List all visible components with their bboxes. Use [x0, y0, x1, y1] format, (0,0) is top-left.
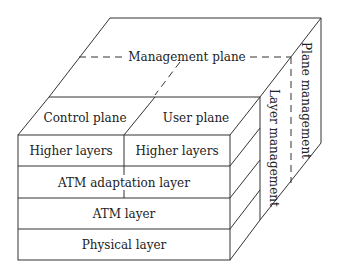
plane-management-label: Plane management — [299, 42, 313, 159]
atm-adaptation-layer-label: ATM adaptation layer — [57, 176, 190, 190]
user-plane-label: User plane — [163, 111, 229, 125]
layer-management-label: Layer management — [267, 89, 281, 207]
control-plane-label: Control plane — [43, 111, 126, 125]
physical-layer-label: Physical layer — [82, 238, 167, 252]
brisdn-protocol-cube-diagram: Management plane Control plane User plan… — [0, 0, 338, 277]
management-plane-label: Management plane — [128, 50, 245, 64]
higher-layers-left-label: Higher layers — [29, 144, 112, 158]
diagram-canvas: Management plane Control plane User plan… — [0, 0, 338, 277]
atm-layer-label: ATM layer — [92, 207, 156, 221]
higher-layers-right-label: Higher layers — [135, 144, 218, 158]
layer-stack-side-face — [230, 97, 260, 260]
